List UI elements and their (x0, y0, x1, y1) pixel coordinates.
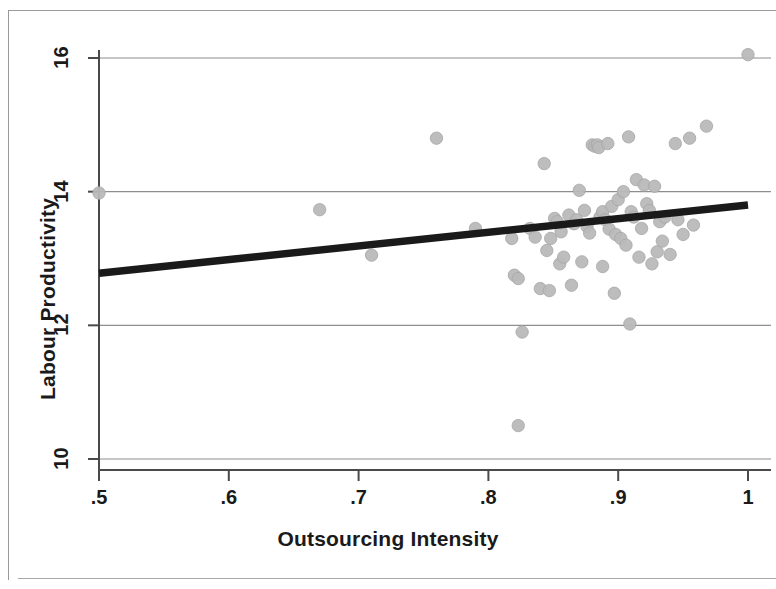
data-point (622, 131, 634, 143)
data-point (543, 284, 555, 296)
data-point (578, 204, 590, 216)
y-tick-label-16: 16 (50, 38, 73, 78)
x-tick-label-0_9: .9 (598, 486, 638, 509)
y-axis-title: Labour Productivity (36, 198, 60, 400)
x-tick-label-1: 1 (728, 486, 768, 509)
data-point (646, 258, 658, 270)
y-tick-label-14: 14 (50, 171, 73, 211)
x-tick-label-0_5: .5 (79, 486, 119, 509)
data-point (573, 184, 585, 196)
data-point (565, 279, 577, 291)
data-point (529, 231, 541, 243)
y-tick-label-12: 12 (50, 305, 73, 345)
data-point (624, 318, 636, 330)
data-point (506, 232, 518, 244)
data-point (633, 251, 645, 263)
data-point (669, 137, 681, 149)
data-point (596, 260, 608, 272)
x-tick-label-0_6: .6 (209, 486, 249, 509)
data-point (430, 132, 442, 144)
x-axis-title: Outsourcing Intensity (0, 527, 776, 551)
data-point (608, 287, 620, 299)
x-tick-label-0_8: .8 (468, 486, 508, 509)
data-point (656, 235, 668, 247)
data-point (700, 120, 712, 132)
data-point (576, 256, 588, 268)
data-point (365, 249, 377, 261)
data-point (516, 326, 528, 338)
data-point (583, 227, 595, 239)
data-point (512, 419, 524, 431)
data-point (664, 248, 676, 260)
x-tick-label-0_7: .7 (339, 486, 379, 509)
data-point (617, 185, 629, 197)
data-point (677, 228, 689, 240)
data-point (512, 272, 524, 284)
data-point (620, 239, 632, 251)
data-point (687, 219, 699, 231)
data-point (635, 222, 647, 234)
data-point (93, 187, 105, 199)
data-point (313, 204, 325, 216)
data-point (538, 157, 550, 169)
data-point (648, 180, 660, 192)
data-point (742, 48, 754, 60)
data-point (683, 132, 695, 144)
y-tick-label-10: 10 (50, 439, 73, 479)
figure-panel: Labour Productivity Outsourcing Intensit… (0, 0, 776, 589)
data-point (602, 137, 614, 149)
data-point (557, 251, 569, 263)
data-point (541, 244, 553, 256)
